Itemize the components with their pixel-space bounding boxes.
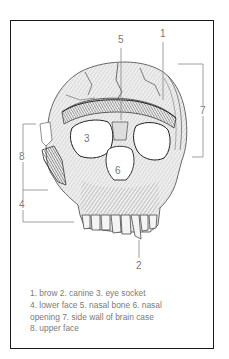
label-2: 2 [136, 261, 142, 271]
caption-line: opening 7. side wall of brain case [30, 312, 215, 324]
teeth [82, 215, 157, 239]
figure-caption: 1. brow 2. canine 3. eye socket 4. lower… [30, 288, 215, 335]
label-4: 4 [19, 200, 25, 210]
label-6: 6 [115, 166, 121, 176]
label-3: 3 [84, 134, 90, 144]
caption-line: 8. upper face [30, 323, 215, 335]
label-1: 1 [160, 29, 166, 39]
label-7: 7 [200, 106, 206, 116]
caption-line: 4. lower face 5. nasal bone 6. nasal [30, 300, 215, 312]
caption-line: 1. brow 2. canine 3. eye socket [30, 288, 215, 300]
label-8: 8 [19, 152, 25, 162]
nasal-bone [112, 122, 128, 140]
label-5: 5 [118, 35, 124, 45]
